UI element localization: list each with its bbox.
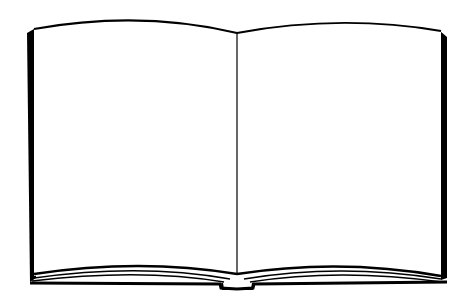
right-cover-edge [440, 31, 447, 280]
illustration-canvas [0, 0, 475, 305]
left-page-stack-3 [32, 275, 224, 282]
left-cover-bottom [30, 283, 237, 289]
right-page [237, 21, 441, 276]
left-page [34, 20, 237, 276]
right-cover-bottom [237, 282, 447, 289]
open-book-illustration [0, 0, 475, 305]
spine-notch [222, 283, 253, 289]
